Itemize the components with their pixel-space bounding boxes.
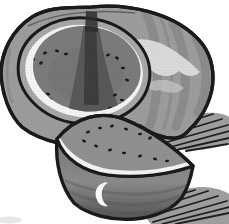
watermelon-illustration: Watermelon clip-art illustration — [0, 0, 229, 224]
illustration-canvas: Watermelon clip-art illustration — [0, 0, 229, 224]
corner-smudge — [0, 217, 22, 224]
